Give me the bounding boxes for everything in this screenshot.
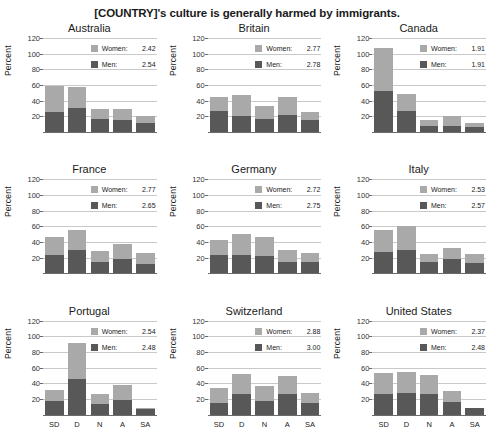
bar-segment-women <box>301 112 320 120</box>
x-tick-label <box>232 274 251 278</box>
y-axis-label: Percent <box>3 45 13 76</box>
stacked-bar <box>68 179 87 273</box>
legend-value: 2.77 <box>136 186 156 193</box>
y-tick-label: 120 <box>27 316 40 325</box>
plot-area: 20406080100120Women:2.42Men:2.54 <box>43 38 157 162</box>
x-tick-label <box>232 133 251 137</box>
bar-segment-men <box>91 262 110 273</box>
legend-value: 2.53 <box>465 186 485 193</box>
y-tick-label: 20 <box>361 112 369 121</box>
bar-segment-men <box>420 394 439 415</box>
legend: Women:2.77Men:2.65 <box>91 186 156 218</box>
x-tick-label <box>255 133 274 137</box>
bar-segment-men <box>232 394 251 414</box>
legend-item-men: Men:2.48 <box>91 344 156 351</box>
plot-canvas: 20406080100120Women:2.77Men:2.65 <box>43 179 157 274</box>
women-swatch-icon <box>255 328 262 335</box>
y-axis-label: Percent <box>332 328 342 359</box>
legend-value: 1.91 <box>465 61 485 68</box>
y-axis-label: Percent <box>168 45 178 76</box>
x-tick-label <box>91 133 110 137</box>
bar-segment-women <box>45 237 64 256</box>
stacked-bar <box>374 179 393 273</box>
chart-panel-germany: GermanyPercent20406080100120Women:2.72Me… <box>165 162 330 303</box>
bar-segment-men <box>136 409 155 414</box>
x-tick-label: N <box>420 416 439 429</box>
bar-segment-men <box>397 393 416 415</box>
x-tick-label <box>91 274 110 278</box>
bar-segment-women <box>255 386 274 400</box>
x-axis: SDDNASA <box>372 416 486 429</box>
legend-label: Men: <box>266 61 300 68</box>
bar-segment-men <box>210 255 229 273</box>
stacked-bar <box>232 38 251 132</box>
legend-value: 2.65 <box>136 202 156 209</box>
bar-segment-men <box>443 259 462 273</box>
legend-value: 2.72 <box>300 186 320 193</box>
bar-segment-women <box>397 226 416 250</box>
y-tick-label: 20 <box>196 112 204 121</box>
x-tick-label <box>465 274 484 278</box>
chart-panel-australia: AustraliaPercent20406080100120Women:2.42… <box>0 21 165 162</box>
y-tick-label: 20 <box>32 394 40 403</box>
bar-segment-women <box>374 373 393 394</box>
bar-segment-men <box>91 404 110 414</box>
bar-segment-women <box>397 372 416 393</box>
bar-segment-women <box>68 230 87 250</box>
legend-label: Men: <box>266 202 300 209</box>
y-tick-label: 120 <box>357 316 370 325</box>
bar-segment-men <box>255 256 274 273</box>
bar-segment-women <box>278 376 297 394</box>
plot-area: 20406080100120Women:2.77Men:2.65 <box>43 179 157 303</box>
y-tick-label: 60 <box>32 81 40 90</box>
x-tick-label <box>443 133 462 137</box>
legend-item-women: Women:2.77 <box>255 45 320 52</box>
x-tick-label <box>397 274 416 278</box>
legend-item-men: Men:2.65 <box>91 202 156 209</box>
x-axis <box>372 133 486 137</box>
x-tick-label: SA <box>301 416 320 429</box>
legend-label: Men: <box>431 202 465 209</box>
men-swatch-icon <box>91 344 98 351</box>
y-axis-label: Percent <box>332 187 342 218</box>
plot-area: 20406080100120Women:2.37Men:2.48SDDNASA <box>372 321 486 445</box>
x-axis: SDDNASA <box>43 416 157 429</box>
legend-item-men: Men:2.75 <box>255 202 320 209</box>
bar-segment-women <box>443 391 462 402</box>
y-tick-label: 80 <box>196 206 204 215</box>
stacked-bar <box>68 321 87 415</box>
bar-segment-women <box>443 116 462 125</box>
legend: Women:2.72Men:2.75 <box>255 186 320 218</box>
x-tick-label <box>255 274 274 278</box>
bar-segment-men <box>255 119 274 132</box>
y-tick-label: 120 <box>27 175 40 184</box>
x-tick-label <box>278 133 297 137</box>
stacked-bar <box>397 179 416 273</box>
x-axis: SDDNASA <box>208 416 322 429</box>
bar-segment-men <box>420 126 439 132</box>
y-tick-label: 40 <box>196 237 204 246</box>
x-axis <box>43 274 157 278</box>
x-tick-label <box>136 133 155 137</box>
plot-area: 20406080100120Women:1.91Men:1.91 <box>372 38 486 162</box>
bar-segment-men <box>68 108 87 132</box>
y-tick-label: 120 <box>192 34 205 43</box>
men-swatch-icon <box>420 61 427 68</box>
stacked-bar <box>210 179 229 273</box>
women-swatch-icon <box>91 186 98 193</box>
y-tick-label: 80 <box>196 65 204 74</box>
legend-label: Women: <box>266 186 300 193</box>
bar-segment-men <box>301 262 320 274</box>
bar-segment-men <box>278 262 297 274</box>
y-tick-label: 40 <box>361 237 369 246</box>
x-tick-label <box>301 133 320 137</box>
bar-segment-men <box>420 262 439 273</box>
y-tick-label: 120 <box>357 34 370 43</box>
legend-item-women: Women:2.88 <box>255 328 320 335</box>
plot-canvas: 20406080100120Women:2.88Men:3.00 <box>208 321 322 416</box>
bar-segment-men <box>397 111 416 132</box>
bar-segment-men <box>374 394 393 414</box>
stacked-bar <box>397 321 416 415</box>
women-swatch-icon <box>420 328 427 335</box>
men-swatch-icon <box>255 202 262 209</box>
